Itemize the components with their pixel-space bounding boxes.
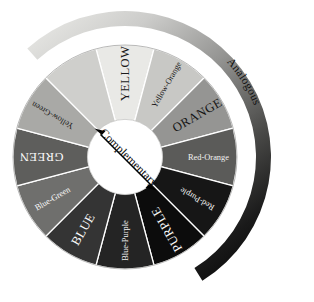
segment-label: Red-Orange	[188, 153, 229, 162]
segment-label: YELLOW	[118, 46, 132, 102]
color-wheel-svg: YELLOWYellow-OrangeORANGERed-OrangeRed-P…	[0, 0, 314, 302]
segment-label: Blue-Purple	[121, 220, 130, 261]
segment-label: GREEN	[20, 150, 64, 164]
color-wheel-diagram: YELLOWYellow-OrangeORANGERed-OrangeRed-P…	[0, 0, 314, 302]
